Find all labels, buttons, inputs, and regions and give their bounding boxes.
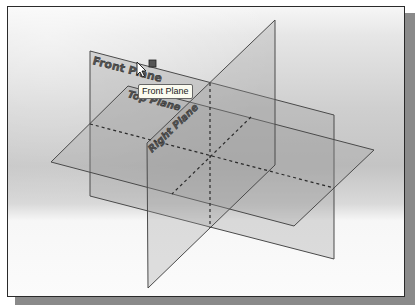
tooltip-text: Front Plane [142,86,189,96]
tooltip: Front Plane [138,84,193,99]
graphics-viewport[interactable]: Front Plane Top Plane Right Plane Front … [7,6,405,297]
right-plane[interactable] [147,20,275,288]
plane-handle-square[interactable] [149,60,156,67]
planes-scene: Front Plane Top Plane Right Plane [8,7,405,297]
